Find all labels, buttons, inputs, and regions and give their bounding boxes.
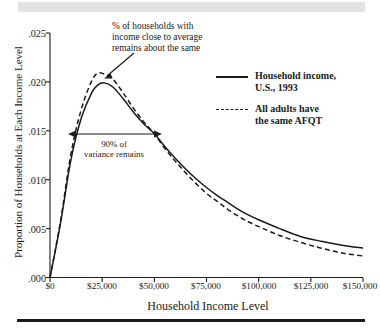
variance-line-2: variance remains [70,149,158,159]
variance-text: 90% of variance remains [70,139,158,159]
legend-label-line-1: All adults have [255,103,322,115]
callout-line-3: remains about the same [112,43,202,54]
legend-item-household-income: Household income, U.S., 1993 [216,70,336,93]
legend-label-line-1: Household income, [255,70,336,82]
legend-label-line-2: the same AFQT [255,115,322,127]
callout-line-1: % of households with [112,21,202,32]
legend: Household income, U.S., 1993 All adults … [216,70,336,136]
legend-solid-line-icon [216,70,248,82]
bottom-rule [17,319,365,322]
variance-double-arrow [68,131,162,138]
legend-label-line-2: U.S., 1993 [255,82,336,94]
variance-line-1: 90% of [70,139,158,149]
legend-dashed-line-icon [216,103,248,115]
callout-text: % of households with income close to ave… [112,21,202,54]
legend-label-household-income: Household income, U.S., 1993 [255,70,336,93]
callout-line-2: income close to average [112,32,202,43]
x-tick-marks [50,278,363,283]
y-tick-marks [46,33,50,278]
legend-label-same-afqt: All adults have the same AFQT [255,103,322,126]
chart-figure: Proportion of Households at Each Income … [0,0,380,330]
callout-arrow [104,53,134,79]
legend-item-same-afqt: All adults have the same AFQT [216,103,336,126]
